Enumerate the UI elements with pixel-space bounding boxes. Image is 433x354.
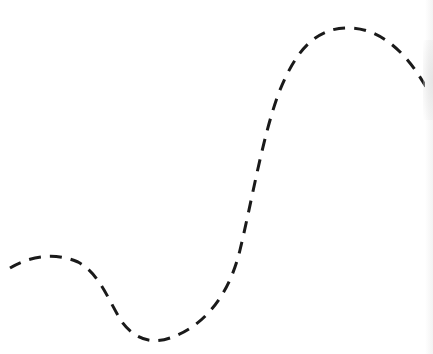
right-edge-smudge (423, 40, 433, 120)
dashed-curve-figure (0, 0, 433, 354)
diagram-canvas (0, 0, 433, 354)
dashed-s-curve (10, 28, 433, 341)
